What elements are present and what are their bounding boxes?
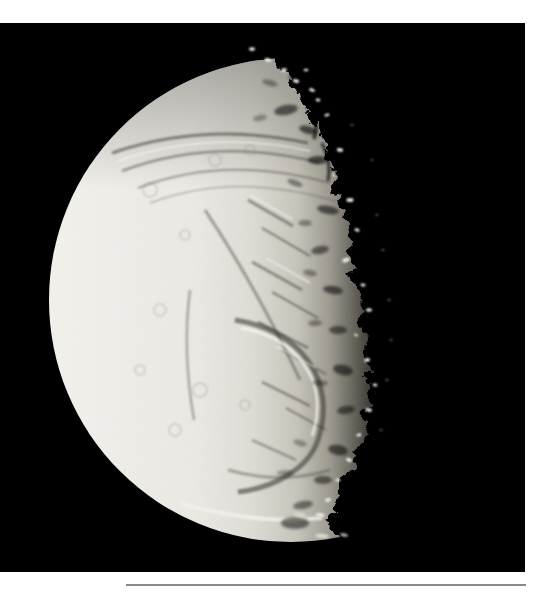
moon-image: [0, 23, 525, 572]
footer-rule: [126, 584, 526, 586]
page-container: [0, 0, 541, 593]
space-photograph: [0, 23, 525, 572]
